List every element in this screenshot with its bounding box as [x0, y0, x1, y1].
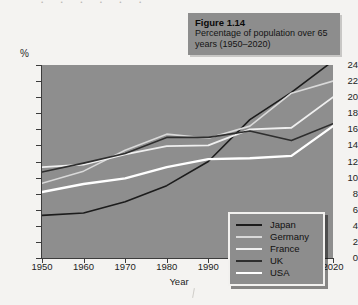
- y-tick-mark: [36, 113, 41, 114]
- y-tick-mark: [36, 242, 41, 243]
- y-tick-mark: [36, 178, 41, 179]
- stray-pencil-mark: [192, 288, 195, 298]
- y-tick-mark: [36, 258, 41, 259]
- legend-label-usa: USA: [270, 267, 290, 279]
- legend-swatch-japan: [236, 224, 262, 226]
- y-tick-mark: [36, 226, 41, 227]
- y-tick-mark: [36, 194, 41, 195]
- y-tick-label: 22: [336, 75, 358, 86]
- x-tick-mark: [167, 259, 168, 263]
- y-tick-mark: [36, 81, 41, 82]
- cropped-header-text: · · · · · ·: [40, 0, 340, 6]
- x-tick-mark: [208, 259, 209, 263]
- y-tick-mark: [36, 65, 41, 66]
- legend-item-usa: USA: [236, 267, 317, 279]
- y-tick-mark: [36, 129, 41, 130]
- legend-item-japan: Japan: [236, 219, 317, 231]
- y-tick-label: 2: [336, 236, 358, 247]
- legend-swatch-france: [236, 248, 262, 250]
- legend-label-uk: UK: [270, 255, 283, 267]
- x-tick-mark: [125, 259, 126, 263]
- legend-swatch-germany: [236, 236, 262, 238]
- legend-item-uk: UK: [236, 255, 317, 267]
- figure-number-label: Figure 1.14: [195, 17, 334, 28]
- y-tick-label: 6: [336, 204, 358, 215]
- y-tick-label: 20: [336, 91, 358, 102]
- y-tick-mark: [36, 162, 41, 163]
- y-tick-mark: [36, 145, 41, 146]
- legend-swatch-usa: [236, 272, 262, 274]
- legend-label-germany: Germany: [270, 231, 309, 243]
- legend-swatch-uk: [236, 260, 262, 262]
- legend-label-japan: Japan: [270, 219, 296, 231]
- legend-item-germany: Germany: [236, 231, 317, 243]
- page-background: · · · · · · Figure 1.14 Percentage of po…: [0, 0, 358, 305]
- y-tick-label: 24: [336, 59, 358, 70]
- chart-legend: JapanGermanyFranceUKUSA: [228, 212, 325, 286]
- x-tick-mark: [84, 259, 85, 263]
- y-tick-label: 4: [336, 220, 358, 231]
- x-tick-mark: [42, 259, 43, 263]
- series-line-germany: [42, 81, 333, 183]
- x-tick-mark: [333, 259, 334, 263]
- legend-item-france: France: [236, 243, 317, 255]
- y-tick-label: 14: [336, 139, 358, 150]
- legend-label-france: France: [270, 243, 300, 255]
- y-tick-mark: [36, 97, 41, 98]
- y-axis-unit-label: %: [20, 48, 29, 59]
- y-tick-label: 16: [336, 123, 358, 134]
- line-chart: % 024681012141618202224 1950196019701980…: [0, 44, 358, 305]
- y-tick-label: 18: [336, 107, 358, 118]
- y-tick-label: 8: [336, 188, 358, 199]
- y-tick-label: 12: [336, 156, 358, 167]
- y-tick-label: 10: [336, 172, 358, 183]
- y-tick-mark: [36, 210, 41, 211]
